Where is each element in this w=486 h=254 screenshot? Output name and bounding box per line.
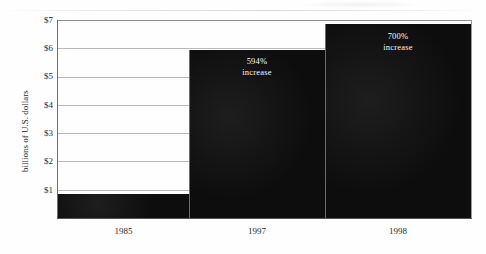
bar-divider-1997-1998 [325, 24, 326, 218]
scan-line-artifact [0, 10, 486, 11]
bar-1998[interactable] [325, 24, 471, 218]
plot-area: 594% increase 700% increase [57, 20, 472, 218]
y-tick-label-7: $7 [9, 15, 53, 25]
x-tick-label-1997: 1997 [189, 226, 325, 236]
plot-border-left [57, 20, 58, 219]
bar-annotation-1997-word: increase [189, 67, 325, 78]
bar-annotation-1998-word: increase [325, 42, 471, 53]
x-tick-label-1998: 1998 [325, 226, 471, 236]
plot-border-top [57, 20, 472, 21]
y-tick-label-6: $6 [9, 43, 53, 53]
x-axis-line [57, 218, 472, 219]
y-tick-label-3: $3 [9, 128, 53, 138]
y-tick-label-1: $1 [9, 185, 53, 195]
bar-annotation-1997: 594% increase [189, 56, 325, 77]
bar-1985[interactable] [58, 194, 189, 218]
y-tick-label-4: $4 [9, 100, 53, 110]
bar-annotation-1998-value: 700% [325, 31, 471, 42]
plot-border-right [471, 20, 472, 219]
bar-annotation-1998: 700% increase [325, 31, 471, 52]
bar-annotation-1997-value: 594% [189, 56, 325, 67]
x-tick-label-1985: 1985 [58, 226, 189, 236]
y-tick-label-2: $2 [9, 156, 53, 166]
scan-artifact [300, 1, 420, 8]
y-axis-ticks: $7 $6 $5 $4 $3 $2 $1 [5, 20, 53, 218]
bar-chart: billions of U.S. dollars $7 $6 $5 $4 $3 … [0, 0, 486, 254]
y-tick-label-5: $5 [9, 71, 53, 81]
